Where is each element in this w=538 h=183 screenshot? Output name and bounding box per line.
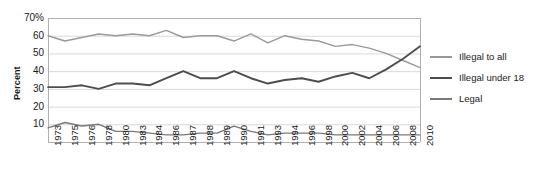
- legend-label: Legal: [459, 93, 482, 104]
- x-tick-label: 1993: [272, 125, 283, 146]
- x-tick-label: 2008: [407, 125, 418, 146]
- legend-label: Illegal to all: [459, 51, 507, 62]
- legend-swatch-icon: [430, 98, 452, 100]
- x-tick-label: 1990: [238, 125, 249, 146]
- x-tick-label: 1989: [221, 125, 232, 146]
- y-tick-label: 30: [10, 84, 44, 94]
- legend-item[interactable]: Illegal to all: [430, 46, 538, 67]
- x-tick-label: 1983: [137, 125, 148, 146]
- x-tick-label: 1998: [323, 125, 334, 146]
- y-tick-label: 40: [10, 66, 44, 76]
- legend-item[interactable]: Illegal under 18: [430, 67, 538, 88]
- x-tick-label: 1975: [69, 125, 80, 146]
- y-tick-label: 20: [10, 102, 44, 112]
- x-tick-label: 2000: [339, 125, 350, 146]
- legend-item[interactable]: Legal: [430, 88, 538, 109]
- x-tick-label: 1984: [153, 125, 164, 146]
- x-tick-label: 1986: [170, 125, 181, 146]
- x-tick-label: 2004: [373, 125, 384, 146]
- x-tick-label: 2006: [390, 125, 401, 146]
- line-chart: Percent 70%605040302010 1973197519761978…: [0, 0, 538, 183]
- x-tick-label: 1991: [255, 125, 266, 146]
- series-line: [48, 46, 420, 89]
- x-tick-label: 1994: [289, 125, 300, 146]
- x-tick-label: 2002: [356, 125, 367, 146]
- x-tick-label: 1973: [52, 125, 63, 146]
- legend-swatch-icon: [430, 56, 452, 58]
- x-tick-label: 1988: [204, 125, 215, 146]
- y-tick-label: 60: [10, 31, 44, 41]
- x-tick-label: 1976: [86, 125, 97, 146]
- y-tick-label: 50: [10, 48, 44, 58]
- x-tick-label: 1987: [187, 125, 198, 146]
- chart-legend: Illegal to allIllegal under 18Legal: [430, 46, 538, 109]
- x-tick-label: 2010: [424, 125, 435, 146]
- y-tick-label: 70%: [10, 13, 44, 23]
- y-tick-label: 10: [10, 119, 44, 129]
- x-tick-label: 1980: [120, 125, 131, 146]
- legend-label: Illegal under 18: [459, 72, 524, 83]
- y-axis-ticks: 70%605040302010: [0, 0, 44, 183]
- x-tick-label: 1978: [103, 125, 114, 146]
- x-tick-label: 1996: [306, 125, 317, 146]
- legend-swatch-icon: [430, 77, 452, 79]
- series-lines: [48, 30, 420, 135]
